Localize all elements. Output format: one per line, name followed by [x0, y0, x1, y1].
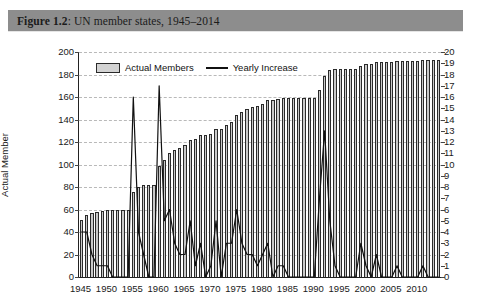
left-axis-tick-label: 160 — [58, 92, 74, 102]
figure-title-banner: Figure 1.2: UN member states, 1945–2014 — [8, 10, 463, 31]
left-axis-tick-label: 180 — [58, 70, 74, 80]
bottom-axis-tick-label: 1955 — [122, 283, 143, 294]
left-axis-tick-label: 80 — [63, 182, 74, 192]
left-axis-tick-label: 200 — [58, 47, 74, 57]
left-axis-tick-label: 20 — [63, 250, 74, 260]
figure-number: Figure 1.2 — [17, 15, 68, 27]
bottom-axis-tick-label: 1975 — [225, 283, 246, 294]
right-axis-tick — [441, 153, 445, 154]
bottom-axis-tick-label: 1990 — [303, 283, 324, 294]
figure-container: Figure 1.2: UN member states, 1945–2014 … — [0, 0, 500, 306]
left-axis-tick-label: 60 — [63, 205, 74, 215]
right-axis-tick — [441, 75, 445, 76]
line-series-yearly-increase — [79, 52, 441, 277]
legend-label-actual-members: Actual Members — [125, 62, 194, 73]
right-axis-tick — [441, 86, 445, 87]
legend-item-actual-members: Actual Members — [96, 62, 194, 73]
right-axis-tick — [441, 221, 445, 222]
bottom-axis-tick-label: 1945 — [70, 283, 91, 294]
right-axis-tick-label: 14 — [444, 115, 455, 125]
right-axis-tick-label: 19 — [444, 58, 455, 68]
right-axis-tick — [441, 120, 445, 121]
right-axis-tick — [441, 187, 445, 188]
bar-swatch-icon — [96, 63, 120, 73]
right-axis-tick — [441, 165, 445, 166]
plot-area — [78, 52, 441, 278]
left-axis-tick-labels: 020406080100120140160180200 — [40, 52, 74, 277]
left-axis-tick-label: 100 — [58, 160, 74, 170]
left-axis-title: Actual Member — [0, 133, 10, 197]
right-axis-tick — [441, 277, 445, 278]
right-axis-tick — [441, 243, 445, 244]
right-axis-tick — [441, 142, 445, 143]
legend-item-yearly-increase: Yearly Increase — [206, 62, 298, 73]
left-axis-title-holder: Actual Member — [42, 52, 43, 277]
right-axis-tick — [441, 210, 445, 211]
right-axis-tick — [441, 52, 445, 53]
right-axis-tick-label: 15 — [444, 103, 455, 113]
figure-title: Figure 1.2: UN member states, 1945–2014 — [8, 15, 220, 27]
left-axis-tick-label: 40 — [63, 227, 74, 237]
right-axis-tick-label: 17 — [444, 81, 455, 91]
right-axis-tick — [441, 108, 445, 109]
right-axis-tick — [441, 63, 445, 64]
left-axis-tick — [75, 277, 79, 278]
left-axis-tick-label: 120 — [58, 137, 74, 147]
right-axis-tick — [441, 266, 445, 267]
right-axis-tick-label: 12 — [444, 137, 455, 147]
bottom-axis-tick-label: 1960 — [148, 283, 169, 294]
right-axis-tick — [441, 198, 445, 199]
right-axis-tick — [441, 131, 445, 132]
bottom-axis-tick-label: 1965 — [173, 283, 194, 294]
right-axis-tick-label: 11 — [444, 148, 454, 158]
left-axis-tick-label: 140 — [58, 115, 74, 125]
right-axis-tick-label: 20 — [444, 47, 455, 57]
bottom-axis-tick-labels: 1945195019551960196519701975198019851990… — [78, 283, 440, 299]
bottom-axis-tick-label: 1985 — [277, 283, 298, 294]
legend-label-yearly-increase: Yearly Increase — [233, 62, 298, 73]
right-axis-tick — [441, 255, 445, 256]
right-axis-tick — [441, 176, 445, 177]
yearly-increase-polyline — [82, 86, 439, 277]
chart-legend: Actual Members Yearly Increase — [96, 62, 298, 73]
right-axis-tick-labels: 01234567891011121314151617181920 — [444, 52, 468, 277]
right-axis-tick-label: 13 — [444, 126, 455, 136]
chart-region: 020406080100120140160180200 012345678910… — [0, 36, 500, 306]
right-axis-tick — [441, 97, 445, 98]
bottom-axis-tick-label: 1950 — [96, 283, 117, 294]
right-axis-tick-label: 18 — [444, 70, 455, 80]
right-axis-title-holder: Yearly Increase — [478, 52, 479, 277]
figure-caption: UN member states, 1945–2014 — [74, 15, 220, 27]
right-axis-tick-label: 16 — [444, 92, 455, 102]
bottom-axis-tick-label: 2010 — [406, 283, 427, 294]
left-axis-tick-label: 0 — [69, 272, 74, 282]
right-axis-tick-label: 10 — [444, 160, 455, 170]
bottom-axis-tick-label: 1995 — [329, 283, 350, 294]
bottom-axis-tick-label: 1970 — [199, 283, 220, 294]
line-segment-icon — [206, 67, 228, 69]
right-axis-tick — [441, 232, 445, 233]
bottom-axis-tick-label: 2005 — [380, 283, 401, 294]
bottom-axis-tick-label: 1980 — [251, 283, 272, 294]
bottom-axis-tick-label: 2000 — [354, 283, 375, 294]
